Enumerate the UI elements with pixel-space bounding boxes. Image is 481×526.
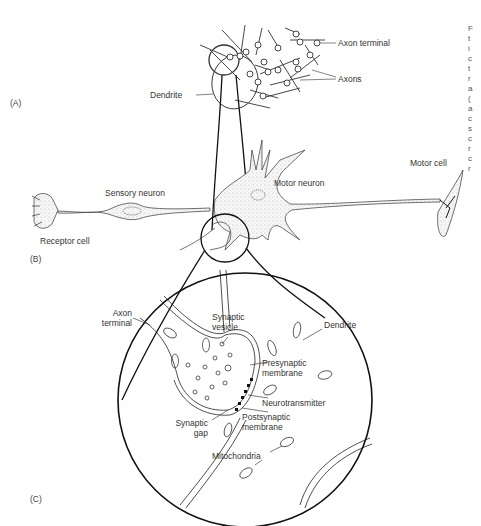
label-axon-terminal-line2: terminal [102, 318, 132, 328]
label-postsynaptic-membrane: Postsynaptic membrane [242, 412, 290, 432]
label-motor-neuron: Motor neuron [274, 178, 325, 188]
edge-char: a [468, 84, 481, 94]
edge-char: c [468, 114, 481, 124]
edge-char: c [468, 54, 481, 64]
label-presynaptic-membrane: Presynaptic membrane [262, 358, 306, 378]
label-axons: Axons [338, 74, 362, 84]
label-neurotransmitter: Neurotransmitter [262, 398, 325, 408]
panel-c-illustration [118, 270, 372, 526]
panel-label-a: (A) [10, 98, 21, 108]
motor-cell [438, 170, 463, 236]
panel-label-b: (B) [30, 254, 41, 264]
edge-char: r [468, 74, 481, 84]
label-synaptic-gap-line2: gap [194, 428, 208, 438]
edge-char: t [468, 34, 481, 44]
label-presynaptic-line1: Presynaptic [262, 358, 306, 368]
zoom-circle-a [209, 45, 239, 75]
synapse-circle [118, 273, 372, 526]
label-axon-terminal-a: Axon terminal [338, 38, 390, 48]
label-postsynaptic-line2: membrane [242, 422, 283, 432]
edge-char: ( [468, 94, 481, 104]
edge-char: s [468, 124, 481, 134]
edge-char: a [468, 104, 481, 114]
label-sensory-neuron: Sensory neuron [105, 188, 165, 198]
panel-label-c: (C) [30, 494, 42, 504]
label-motor-cell: Motor cell [410, 158, 447, 168]
label-dendrite-a: Dendrite [150, 90, 182, 100]
label-synaptic-gap: Synaptic gap [166, 418, 208, 438]
edge-char: r [468, 144, 481, 154]
cropped-caption-text: F t i c t r a ( a c s c r c r [468, 24, 481, 174]
neuron-synapse-diagram [0, 0, 481, 526]
label-synaptic-gap-line1: Synaptic [175, 418, 208, 428]
synaptic-vesicles [186, 342, 232, 400]
panel-a-illustration [196, 25, 336, 113]
label-axon-terminal-c: Axon terminal [96, 308, 132, 328]
receptor-cell [32, 194, 58, 229]
label-postsynaptic-line1: Postsynaptic [242, 412, 290, 422]
edge-char: r [468, 164, 481, 174]
label-mitochondria: Mitochondria [212, 451, 261, 461]
edge-char: F [468, 24, 481, 34]
edge-char: c [468, 154, 481, 164]
panel-b-illustration [32, 140, 463, 262]
label-synaptic-vesicle: Synaptic vesicle [212, 312, 245, 332]
dendrite-oval [208, 51, 263, 112]
edge-char: t [468, 64, 481, 74]
sensory-neuron-body [58, 203, 210, 220]
label-receptor-cell: Receptor cell [40, 236, 90, 246]
edge-char: c [468, 134, 481, 144]
label-synaptic-vesicle-line1: Synaptic [212, 312, 245, 322]
label-presynaptic-line2: membrane [262, 368, 303, 378]
label-synaptic-vesicle-line2: vesicle [212, 322, 238, 332]
label-dendrite-c: Dendrite [324, 320, 356, 330]
edge-char: i [468, 44, 481, 54]
label-axon-terminal-line1: Axon [113, 308, 132, 318]
